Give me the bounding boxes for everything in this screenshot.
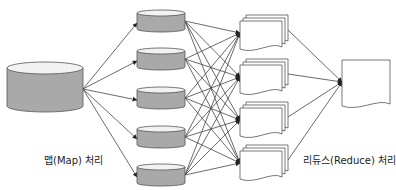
map-output-cylinder-1 xyxy=(137,10,185,32)
intermediate-doc-stack-3 xyxy=(240,102,288,138)
map-output-cylinder-4 xyxy=(137,126,185,148)
map-output-cylinder-3 xyxy=(137,87,185,109)
intermediate-doc-stack-1 xyxy=(240,15,288,51)
intermediate-doc-stack-4 xyxy=(240,145,288,181)
reduce-result-document xyxy=(342,60,390,108)
map-output-cylinder-2 xyxy=(137,48,185,70)
map-label: 맵(Map) 처리 xyxy=(44,152,103,167)
map-output-cylinder-5 xyxy=(137,164,185,186)
reduce-label: 리듀스(Reduce) 처리 xyxy=(303,152,396,167)
source-data-cylinder xyxy=(7,62,83,112)
intermediate-doc-stack-2 xyxy=(240,59,288,95)
